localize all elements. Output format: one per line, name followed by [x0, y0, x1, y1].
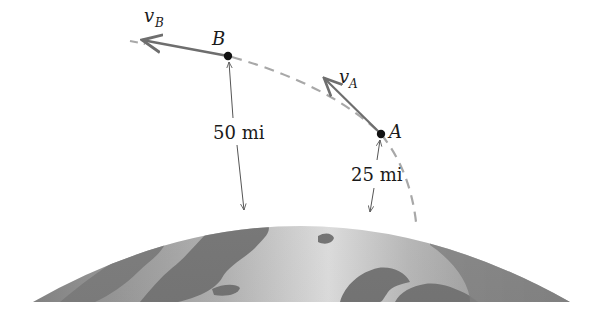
dimension-label-50mi: 50 mi: [213, 122, 265, 143]
velocity-subscript-a: A: [348, 77, 358, 91]
velocity-symbol-b: v: [144, 5, 154, 26]
point-label-b: B: [211, 28, 225, 49]
point-a: [377, 130, 385, 138]
dimension-altitude-a: 25 mi: [351, 140, 403, 212]
velocity-label-a: v A: [339, 66, 358, 91]
trajectory-tail: [130, 41, 145, 44]
dimension-label-25mi: 25 mi: [351, 164, 403, 185]
point-label-a: A: [387, 121, 402, 142]
velocity-label-b: v B: [144, 5, 164, 30]
velocity-symbol-a: v: [339, 66, 349, 87]
point-b: [224, 52, 232, 60]
diagram-canvas: 50 mi 25 mi B A v B v A: [0, 0, 605, 318]
dimension-altitude-b: 50 mi: [213, 62, 265, 210]
earth: [0, 0, 605, 318]
velocity-subscript-b: B: [154, 16, 164, 30]
earth-landmasses: [0, 0, 605, 318]
